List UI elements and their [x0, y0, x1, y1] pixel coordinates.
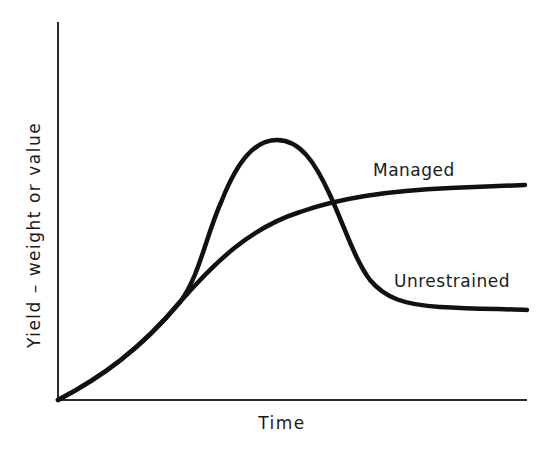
managed-curve: [58, 185, 525, 400]
line-chart: [0, 0, 553, 453]
y-axis-label: Yield – weight or value: [14, 80, 54, 390]
unrestrained-curve: [58, 140, 527, 400]
unrestrained-label: Unrestrained: [394, 271, 510, 291]
x-axis-label: Time: [232, 413, 332, 433]
y-axis-label-text: Yield – weight or value: [24, 122, 44, 348]
managed-label: Managed: [373, 160, 455, 180]
